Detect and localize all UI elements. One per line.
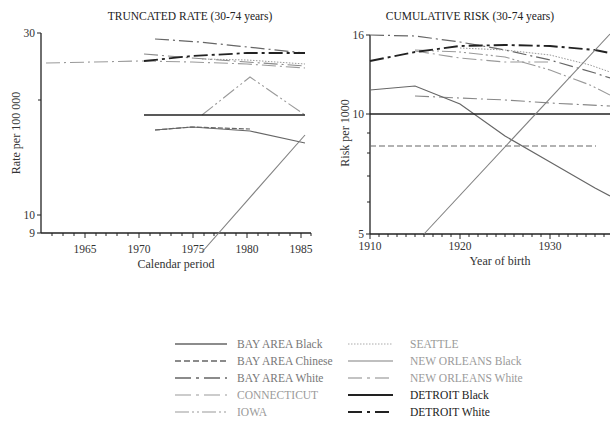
left-xtick-1965: 1965 [74,243,97,255]
left-xtick-1980: 1980 [236,243,259,255]
left-xtick-1975: 1975 [182,243,205,255]
left-chart-title: TRUNCATED RATE (30-74 years) [108,10,273,23]
right-x-minor-ticks [370,234,604,239]
legend-item-bay-area-white: BAY AREA White [175,369,333,386]
right-line-seattle [460,48,610,72]
right-line-new-orleans-black [424,34,610,234]
legend-item-connecticut: CONNECTICUT [175,386,333,403]
legend-left-column: BAY AREA Black BAY AREA Chinese BAY AREA… [175,335,333,420]
legend-item-iowa: IOWA [175,403,333,420]
dotted-line-swatch-icon [348,339,400,349]
legend-item-bay-area-chinese: BAY AREA Chinese [175,352,333,369]
legend-label: BAY AREA Chinese [237,355,333,367]
right-line-connecticut [415,51,548,62]
dash-dot-line-swatch-icon [348,373,400,383]
solid-line-swatch-icon [175,339,227,349]
legend-label: DETROIT White [410,406,490,418]
left-y-axis-label: Rate per 100 000 [9,92,23,174]
left-ytick-30: 30 [24,27,36,39]
legend-label: SEATTLE [410,338,459,350]
solid-line-swatch-icon [348,356,400,366]
right-chart-title: CUMULATIVE RISK (30-74 years) [386,10,554,23]
legend-label: NEW ORLEANS White [410,372,523,384]
right-ytick-16: 16 [353,29,365,41]
left-ytick-10: 10 [24,209,36,221]
legend-label: IOWA [237,406,267,418]
legend-item-bay-area-black: BAY AREA Black [175,335,333,352]
right-xtick-1910: 1910 [359,240,382,252]
right-y-axis-label: Risk per 1000 [338,99,352,166]
legend-item-detroit-white: DETROIT White [348,403,523,420]
dash-dot-dot-line-swatch-icon [175,407,227,417]
right-line-bay-area-white [370,35,610,78]
left-chart: TRUNCATED RATE (30-74 years) 30 10 9 [9,10,313,271]
right-chart: CUMULATIVE RISK (30-74 years) 16 10 5 [338,10,610,268]
left-line-bay-area-white [155,39,305,53]
legend-item-new-orleans-white: NEW ORLEANS White [348,369,523,386]
left-xtick-1970: 1970 [128,243,151,255]
dash-dot-line-swatch-icon [348,407,400,417]
right-series [370,34,610,234]
right-ytick-5: 5 [358,228,364,240]
left-ytick-9: 9 [29,227,35,239]
left-line-detroit-white [144,53,305,61]
legend-label: DETROIT Black [410,389,489,401]
legend-label: BAY AREA Black [237,338,322,350]
legend-item-new-orleans-black: NEW ORLEANS Black [348,352,523,369]
legend-item-seattle: SEATTLE [348,335,523,352]
legend-right-column: SEATTLE NEW ORLEANS Black NEW ORLEANS Wh… [348,335,523,420]
legend-label: NEW ORLEANS Black [410,355,522,367]
left-xtick-1985: 1985 [290,243,313,255]
right-line-bay-area-black [370,86,610,196]
left-line-new-orleans-white [144,54,305,66]
left-line-connecticut [46,61,305,68]
right-xtick-1920: 1920 [449,240,472,252]
dash-dot-line-swatch-icon [175,390,227,400]
right-ytick-10: 10 [353,108,365,120]
legend-label: CONNECTICUT [237,389,318,401]
right-x-axis-label: Year of birth [470,254,531,268]
dashed-line-swatch-icon [175,356,227,366]
solid-line-swatch-icon [348,390,400,400]
left-line-bay-area-black [155,127,305,143]
right-xtick-1930: 1930 [539,240,562,252]
left-x-minor-ticks [52,233,311,238]
right-line-iowa [415,50,610,95]
dash-dot-line-swatch-icon [175,373,227,383]
left-series [46,39,305,252]
left-line-iowa [202,77,305,115]
legend-item-detroit-black: DETROIT Black [348,386,523,403]
left-x-axis-label: Calendar period [138,257,215,271]
legend-label: BAY AREA White [237,372,323,384]
